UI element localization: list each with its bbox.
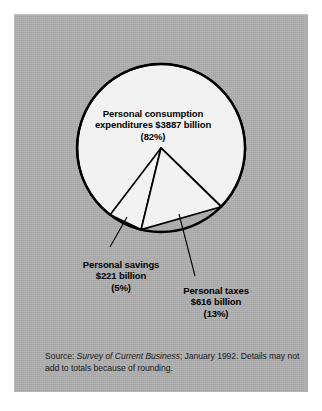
label-personal-consumption: Personal consumption expenditures $3887 … [70,108,236,142]
leader-line-taxes [179,214,195,276]
source-note: Source: Survey of Current Business; Janu… [45,351,303,374]
pie-chart-figure: Personal consumption expenditures $3887 … [0,0,322,411]
label-personal-taxes: Personal taxes $616 billion (13%) [158,285,274,319]
pie-chart-svg [14,14,308,392]
source-prefix: Source: [45,351,77,361]
source-publication: Survey of Current Business [77,351,180,361]
pie-slices [77,64,245,232]
pie-chart-area: Personal consumption expenditures $3887 … [14,14,308,392]
